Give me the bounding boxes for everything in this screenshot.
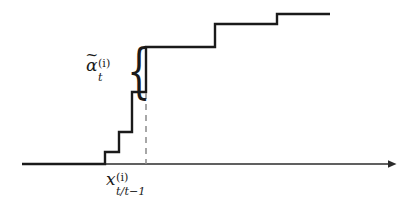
alpha-tilde-label: ~α(i)t [86,57,97,74]
x-superscript: (i) [116,172,128,183]
x-glyph: x [106,171,116,188]
alpha-glyph: ~α [86,57,97,74]
figure-container: { ~α(i)t x(i)t/t−1 [0,0,411,212]
x-predicted-label: x(i)t/t−1 [106,171,116,188]
alpha-subscript: t [98,72,103,83]
curly-brace: { [127,40,151,100]
tilde-accent: ~ [85,47,98,63]
alpha-superscript: (i) [98,58,110,69]
step-curve [22,14,330,164]
x-subscript: t/t−1 [116,186,145,197]
step-function-plot [0,0,411,212]
